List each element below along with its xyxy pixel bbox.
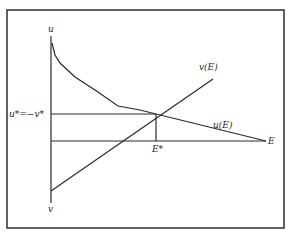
u-curve-label: u(E) xyxy=(213,120,233,130)
x-axis-label: E xyxy=(267,136,275,146)
equilibrium-label: u*=−v* xyxy=(9,109,44,119)
figure-frame xyxy=(7,10,284,228)
axis-top-label: u xyxy=(48,24,54,34)
u-curve xyxy=(52,43,266,141)
equilibrium-x-label: E* xyxy=(151,144,164,154)
equilibrium-diagram: u v u(E) v(E) u*=−v* E* E xyxy=(0,0,290,242)
axis-bottom-label: v xyxy=(48,204,53,214)
v-line xyxy=(51,79,213,191)
v-line-label: v(E) xyxy=(199,62,218,72)
